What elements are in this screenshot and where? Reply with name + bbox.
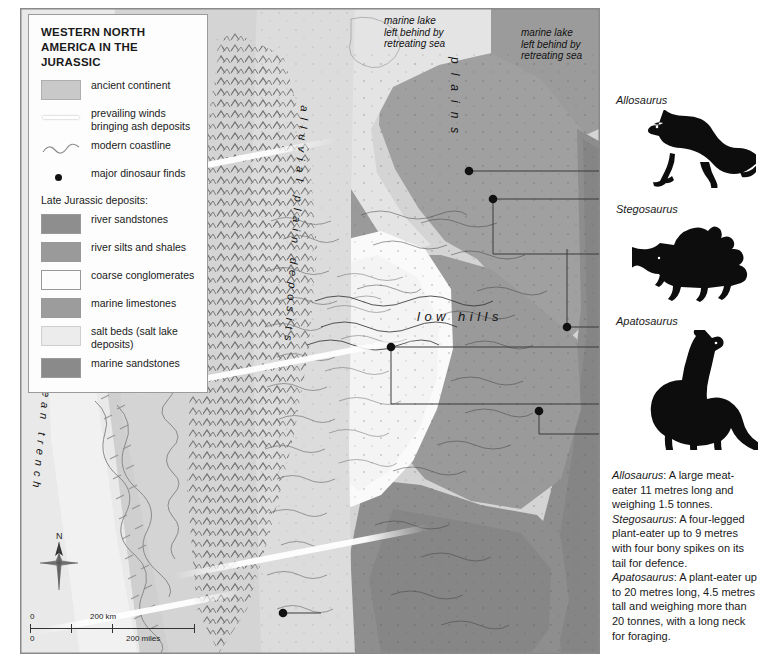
stegosaur-silhouette-icon (632, 215, 754, 303)
compass-north-label: N (56, 531, 63, 541)
marine-limestones-swatch-icon (41, 298, 81, 318)
stegosaurus-silhouette-icon (632, 215, 754, 307)
legend-item-label: prevailing winds bringing ash deposits (91, 107, 197, 132)
marine-sandstones-swatch-icon (41, 358, 81, 378)
legend-deposit-label: river silts and shales (91, 241, 186, 254)
salt-beds-swatch-icon (41, 326, 81, 346)
compass-rose-icon: N (38, 530, 82, 592)
legend-title: WESTERN NORTH AMERICA IN THE JURASSIC (41, 25, 197, 70)
scale-miles-zero: 0 (30, 634, 34, 643)
coarse-conglomerates-swatch-icon (41, 270, 81, 290)
legend-item-prevailing-winds: prevailing winds bringing ash deposits (41, 107, 197, 132)
legend-deposit-marine-sandstones: marine sandstones (41, 357, 197, 378)
legend-item-label: major dinosaur finds (91, 167, 186, 180)
scale-bar: 0 200 km 0 200 miles (30, 612, 195, 646)
description-apatosaurus: Apatosaurus: A plant-eater up to 20 metr… (612, 570, 758, 643)
compass-rose: N (38, 530, 82, 590)
map-legend: WESTERN NORTH AMERICA IN THE JURASSIC an… (28, 14, 208, 393)
allosaurus-silhouette-icon (642, 110, 756, 192)
river-sandstones-swatch-icon (41, 214, 81, 234)
jurassic-map-page: marine lake left behind by retreating se… (0, 0, 760, 662)
description-name: Apatosaurus (612, 571, 674, 583)
legend-item-major-dinosaur-finds: major dinosaur finds (41, 167, 197, 186)
legend-deposit-marine-limestones: marine limestones (41, 297, 197, 318)
description-name: Stegosaurus (612, 513, 674, 525)
legend-item-ancient-continent: ancient continent (41, 79, 197, 100)
legend-deposit-label: river sandstones (91, 213, 168, 226)
legend-deposit-label: coarse conglomerates (91, 269, 194, 282)
legend-deposit-label: salt beds (salt lake deposits) (91, 325, 197, 350)
prevailing-wind-streak-icon (41, 108, 81, 126)
dinosaur-descriptions: Allosaurus: A large meat-eater 11 metres… (612, 468, 758, 643)
legend-deposit-label: marine sandstones (91, 357, 180, 370)
legend-item-modern-coastline: modern coastline (41, 139, 197, 160)
legend-deposit-river-silts-and-shales: river silts and shales (41, 241, 197, 262)
legend-deposit-label: marine limestones (91, 297, 176, 310)
legend-deposit-river-sandstones: river sandstones (41, 213, 197, 234)
apatosaurus-silhouette-icon (626, 330, 758, 454)
theropod-silhouette-icon (642, 110, 756, 188)
legend-subheading: Late Jurassic deposits: (41, 194, 197, 206)
description-stegosaurus: Stegosaurus: A four-legged plant-eater u… (612, 512, 758, 570)
scale-ruler (30, 623, 195, 635)
description-allosaurus: Allosaurus: A large meat-eater 11 metres… (612, 468, 758, 512)
description-name: Allosaurus (612, 469, 663, 481)
find-dot-icon (41, 168, 81, 186)
coastline-glyph-icon (41, 140, 81, 158)
legend-deposit-salt-beds: salt beds (salt lake deposits) (41, 325, 197, 350)
legend-item-label: modern coastline (91, 139, 171, 152)
scale-km-label: 200 km (90, 612, 116, 621)
legend-item-label: ancient continent (91, 79, 170, 92)
legend-deposit-coarse-conglomerates: coarse conglomerates (41, 269, 197, 290)
river-silts-shales-swatch-icon (41, 242, 81, 262)
dinosaur-label-stegosaurus: Stegosaurus (616, 203, 678, 215)
modern-coastline-icon (41, 140, 81, 160)
dinosaur-label-allosaurus: Allosaurus (616, 94, 667, 106)
ancient-continent-swatch-icon (41, 80, 81, 100)
scale-km-zero: 0 (30, 612, 34, 621)
sauropod-silhouette-icon (626, 330, 758, 450)
scale-miles-label: 200 miles (126, 634, 160, 643)
dinosaur-label-apatosaurus: Apatosaurus (616, 315, 678, 327)
